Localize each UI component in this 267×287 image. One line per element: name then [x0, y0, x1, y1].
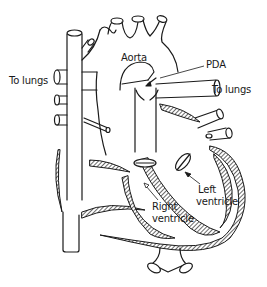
left-ventricle-arrow — [185, 172, 200, 184]
label-right-ventricle-1: Right — [152, 201, 178, 212]
pulmonary-trunk — [135, 80, 220, 152]
inferior-vena-cava — [63, 212, 79, 252]
right-atrium — [82, 30, 110, 155]
pulmonary-valve — [134, 159, 156, 167]
left-pulmonary-veins — [54, 70, 67, 125]
heart-diagram: To lungs Aorta PDA To lungs Left ventric… — [0, 0, 267, 287]
label-right-ventricle-2: ventricle — [152, 213, 194, 224]
aortic-valve — [173, 151, 194, 173]
right-pulmonary-veins — [195, 108, 233, 140]
descending-aorta — [146, 248, 194, 275]
pda-pointer-line — [160, 66, 204, 78]
label-to-lungs-right: To lungs — [211, 84, 251, 95]
ventricle-walls — [56, 104, 245, 250]
label-left-ventricle-2: ventricle — [196, 196, 238, 207]
label-pda: PDA — [206, 59, 226, 70]
label-left-ventricle-1: Left — [198, 184, 216, 195]
superior-vena-cava — [67, 30, 95, 200]
label-aorta: Aorta — [121, 52, 147, 63]
label-to-lungs-left: To lungs — [8, 75, 48, 86]
